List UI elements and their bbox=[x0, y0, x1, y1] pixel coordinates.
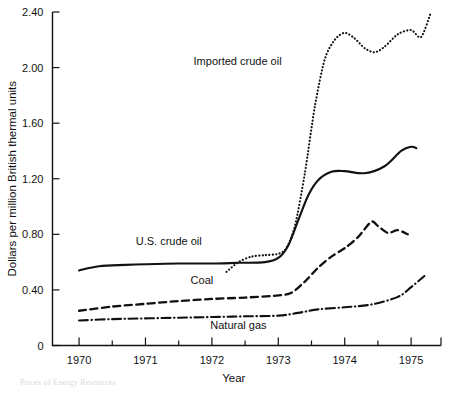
page-caption-fragment: Prices of Energy Resources bbox=[20, 378, 116, 387]
y-axis-title: Dollars per million British thermal unit… bbox=[6, 81, 18, 277]
y-tick-label: 1.20 bbox=[22, 173, 43, 185]
y-tick-label: 0.80 bbox=[22, 228, 43, 240]
y-tick-label: 1.60 bbox=[22, 117, 43, 129]
y-tick-label: 0.40 bbox=[22, 284, 43, 296]
series-line-imported-crude-oil bbox=[226, 12, 431, 272]
x-tick-label: 1972 bbox=[200, 354, 224, 366]
series-line-u-s-crude-oil bbox=[79, 147, 416, 271]
x-tick-label: 1971 bbox=[133, 354, 157, 366]
chart-container: 00.400.801.201.602.002.40197019711972197… bbox=[0, 0, 457, 393]
y-tick-label: 0 bbox=[37, 340, 43, 352]
series-line-coal bbox=[79, 221, 408, 310]
y-tick-label: 2.40 bbox=[22, 6, 43, 18]
x-tick-label: 1970 bbox=[67, 354, 91, 366]
x-tick-label: 1974 bbox=[332, 354, 356, 366]
y-tick-label: 2.00 bbox=[22, 62, 43, 74]
series-label-u-s-crude-oil: U.S. crude oil bbox=[136, 235, 202, 247]
x-axis-title: Year bbox=[222, 372, 245, 384]
series-annotations-group: Imported crude oilU.S. crude oilCoalNatu… bbox=[136, 55, 282, 331]
line-chart: 00.400.801.201.602.002.40197019711972197… bbox=[0, 0, 457, 393]
series-label-coal: Coal bbox=[191, 274, 214, 286]
x-tick-label: 1973 bbox=[266, 354, 290, 366]
x-tick-label: 1975 bbox=[399, 354, 423, 366]
series-label-natural-gas: Natural gas bbox=[210, 319, 267, 331]
series-label-imported-crude-oil: Imported crude oil bbox=[194, 55, 282, 67]
